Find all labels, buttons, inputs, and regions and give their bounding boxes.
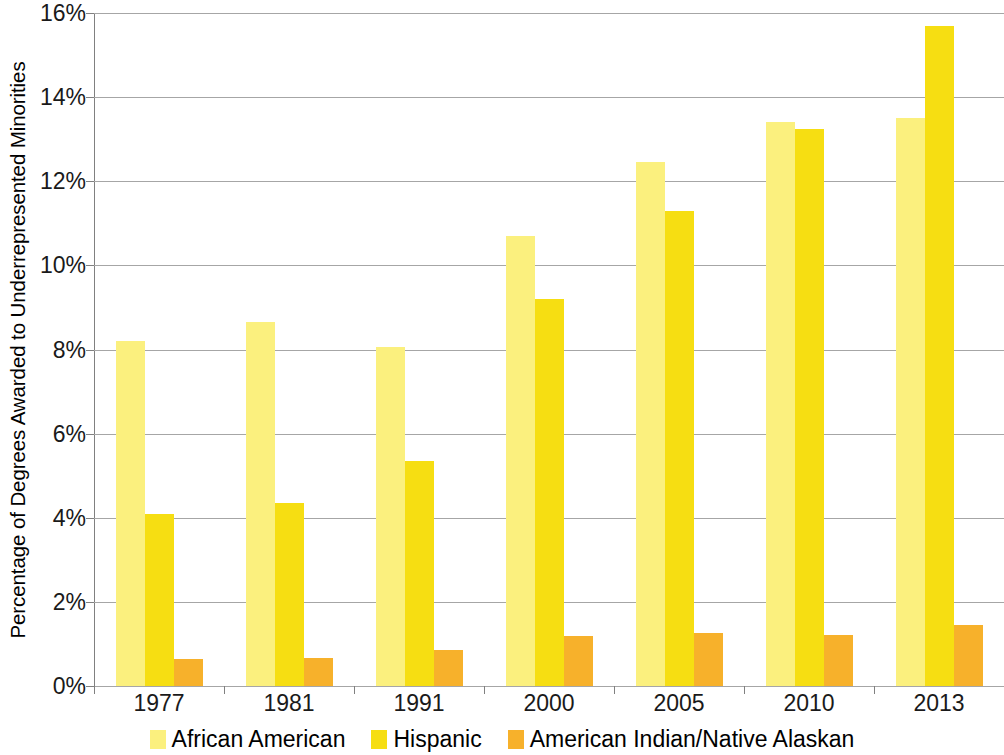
y-axis-tick: [86, 265, 94, 266]
bar-group: [354, 13, 484, 686]
bar[interactable]: [405, 461, 434, 686]
y-axis-tick-label: 2%: [30, 588, 86, 615]
y-axis-tick-label: 8%: [30, 336, 86, 363]
y-axis-tick: [86, 97, 94, 98]
bar-group: [614, 13, 744, 686]
x-axis-tick-label: 1977: [94, 690, 224, 717]
x-axis-tick-label: 1981: [224, 690, 354, 717]
x-axis-tick-label: 2000: [484, 690, 614, 717]
bar[interactable]: [145, 514, 174, 686]
bar-group: [874, 13, 1004, 686]
y-axis-tick: [86, 686, 94, 687]
y-axis-tick: [86, 518, 94, 519]
x-axis-tick-label: 2005: [614, 690, 744, 717]
bar[interactable]: [824, 635, 853, 686]
x-axis-tick-labels: 1977198119912000200520102013: [94, 690, 1004, 726]
legend-item[interactable]: African American: [150, 726, 346, 753]
legend-label: Hispanic: [393, 726, 481, 753]
y-axis-tick: [86, 350, 94, 351]
bar[interactable]: [376, 347, 405, 686]
legend-swatch-icon: [150, 730, 166, 749]
bar-chart: Percentage of Degrees Awarded to Underre…: [0, 0, 1004, 755]
y-axis-tick-label: 14%: [30, 84, 86, 111]
y-axis-tick-label: 10%: [30, 252, 86, 279]
legend-label: African American: [172, 726, 346, 753]
bar-group: [224, 13, 354, 686]
bar[interactable]: [954, 625, 983, 686]
bar[interactable]: [535, 299, 564, 686]
y-axis-tick-labels: 0%2%4%6%8%10%12%14%16%: [30, 0, 86, 700]
x-axis-tick-label: 2010: [744, 690, 874, 717]
bar[interactable]: [246, 322, 275, 686]
bar[interactable]: [766, 122, 795, 686]
y-axis-tick-label: 16%: [30, 0, 86, 27]
y-axis-tick: [86, 181, 94, 182]
legend-swatch-icon: [508, 730, 524, 749]
plot-area: [94, 13, 1004, 686]
chart-legend: African AmericanHispanicAmerican Indian/…: [0, 724, 1004, 755]
bar[interactable]: [564, 636, 593, 686]
x-axis-tick-label: 2013: [874, 690, 1004, 717]
bar-group: [94, 13, 224, 686]
legend-item[interactable]: Hispanic: [371, 726, 481, 753]
y-axis-title-text: Percentage of Degrees Awarded to Underre…: [6, 61, 30, 638]
bar[interactable]: [665, 211, 694, 686]
legend-item[interactable]: American Indian/Native Alaskan: [508, 726, 855, 753]
y-axis-tick-label: 6%: [30, 420, 86, 447]
y-axis-tick-label: 4%: [30, 504, 86, 531]
legend-swatch-icon: [371, 730, 387, 749]
y-axis-tick: [86, 13, 94, 14]
y-axis-tick-label: 12%: [30, 168, 86, 195]
y-axis-tick: [86, 602, 94, 603]
bar[interactable]: [795, 129, 824, 686]
bar-group: [484, 13, 614, 686]
bar[interactable]: [434, 650, 463, 686]
bar[interactable]: [636, 162, 665, 686]
bar[interactable]: [925, 26, 954, 686]
bar[interactable]: [304, 658, 333, 686]
bar[interactable]: [506, 236, 535, 686]
x-axis-tick-label: 1991: [354, 690, 484, 717]
bar-group: [744, 13, 874, 686]
legend-label: American Indian/Native Alaskan: [530, 726, 855, 753]
bar[interactable]: [174, 659, 203, 686]
bar[interactable]: [694, 633, 723, 686]
bar[interactable]: [275, 503, 304, 686]
bar[interactable]: [896, 118, 925, 686]
y-axis-tick-label: 0%: [30, 673, 86, 700]
bar[interactable]: [116, 341, 145, 686]
y-axis-tick: [86, 434, 94, 435]
gridline: [94, 686, 1004, 687]
